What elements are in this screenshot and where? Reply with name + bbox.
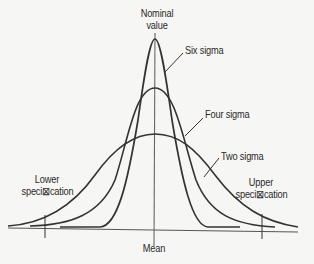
- mean-line: [154, 33, 155, 246]
- upper-specification-label: Upper speci⊠cation: [235, 176, 286, 200]
- lower-label-line2: speci⊠cation: [21, 185, 72, 197]
- nominal-label-line1: Nominal: [138, 7, 177, 19]
- distribution-plot: [0, 0, 314, 264]
- nominal-value-label: Nominal value: [138, 7, 177, 31]
- two-sigma-label: Two sigma: [221, 150, 264, 162]
- four-sigma-leader: [185, 118, 203, 136]
- two-sigma-leader: [204, 158, 219, 177]
- upper-label-line1: Upper: [235, 176, 286, 188]
- baseline-axis: [8, 228, 298, 232]
- six-sigma-curve: [60, 39, 240, 227]
- six-sigma-diagram: Nominal value Six sigma Four sigma Two s…: [0, 0, 314, 264]
- nominal-label-line2: value: [138, 19, 177, 31]
- six-sigma-leader: [165, 53, 183, 72]
- four-sigma-label: Four sigma: [205, 108, 249, 120]
- upper-label-line2: speci⊠cation: [235, 188, 286, 200]
- lower-label-line1: Lower: [21, 173, 72, 185]
- lower-specification-label: Lower speci⊠cation: [21, 173, 72, 197]
- mean-label: Mean: [138, 242, 170, 254]
- six-sigma-label: Six sigma: [185, 44, 223, 56]
